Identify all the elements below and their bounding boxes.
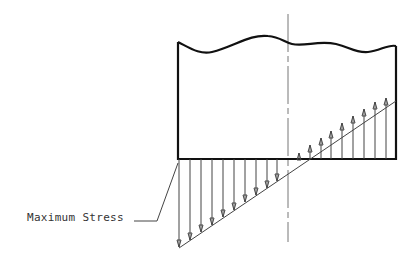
maximum-stress-label: Maximum Stress bbox=[27, 211, 124, 224]
compression-stress-arrows bbox=[177, 159, 279, 247]
stress-diagram bbox=[0, 0, 416, 268]
tension-stress-arrows bbox=[297, 98, 388, 160]
maximum-stress-leader bbox=[134, 163, 178, 221]
section-outline bbox=[178, 42, 396, 159]
wavy-top-break-line bbox=[178, 36, 396, 53]
